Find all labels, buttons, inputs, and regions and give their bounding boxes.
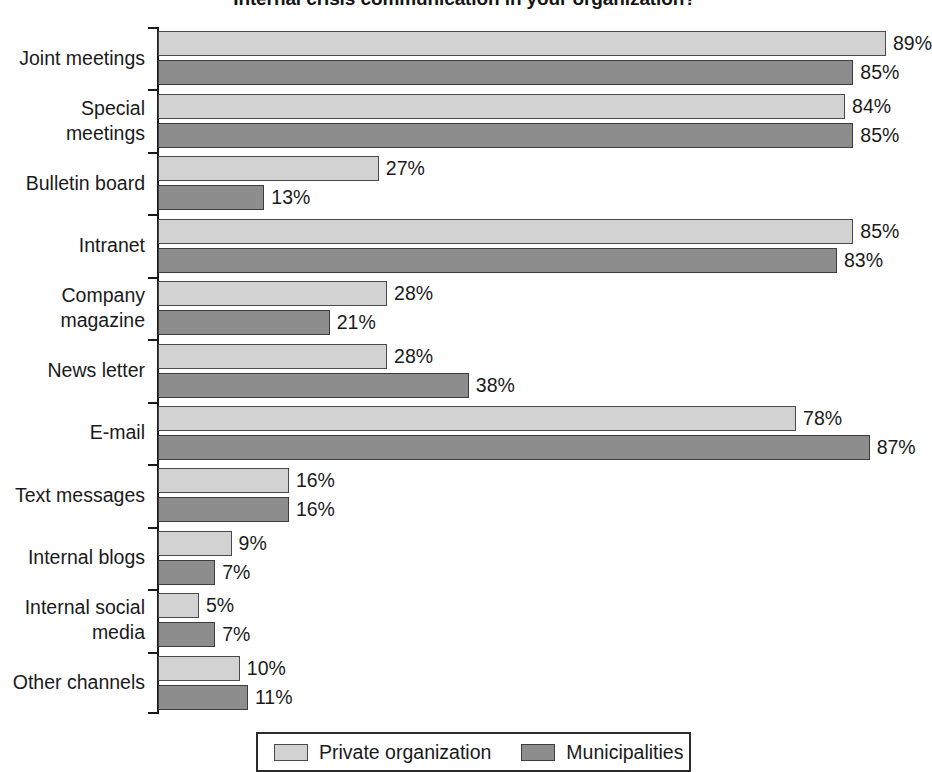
category-label: Company magazine bbox=[0, 283, 145, 333]
bar-municipalities bbox=[158, 435, 870, 460]
bar-value-label: 7% bbox=[222, 622, 250, 647]
bar-private-organization bbox=[158, 31, 886, 56]
legend-label: Private organization bbox=[319, 741, 491, 764]
legend-item: Private organization bbox=[274, 741, 491, 764]
bar-value-label: 13% bbox=[271, 185, 310, 210]
category-label: News letter bbox=[0, 358, 145, 383]
axis-tick bbox=[148, 652, 157, 654]
axis-tick bbox=[148, 527, 157, 529]
bar-municipalities bbox=[158, 373, 469, 398]
category-label: Other channels bbox=[0, 670, 145, 695]
axis-tick bbox=[148, 89, 157, 91]
category-label: Bulletin board bbox=[0, 171, 145, 196]
bar-private-organization bbox=[158, 281, 387, 306]
legend-item: Municipalities bbox=[521, 741, 683, 764]
bar-value-label: 28% bbox=[394, 344, 433, 369]
bar-value-label: 85% bbox=[860, 123, 899, 148]
axis-tick bbox=[148, 27, 157, 29]
bar-municipalities bbox=[158, 248, 837, 273]
category-label: Joint meetings bbox=[0, 46, 145, 71]
bar-value-label: 84% bbox=[852, 94, 891, 119]
bar-municipalities bbox=[158, 560, 215, 585]
bar-private-organization bbox=[158, 531, 232, 556]
axis-tick bbox=[148, 402, 157, 404]
legend-swatch-icon bbox=[274, 744, 308, 761]
bar-private-organization bbox=[158, 406, 796, 431]
bar-private-organization bbox=[158, 656, 240, 681]
axis-tick bbox=[148, 277, 157, 279]
bar-value-label: 10% bbox=[247, 656, 286, 681]
plot-area: 89%85%84%85%27%13%85%83%28%21%28%38%78%8… bbox=[157, 27, 929, 714]
bar-municipalities bbox=[158, 310, 330, 335]
bar-value-label: 89% bbox=[893, 31, 932, 56]
bar-value-label: 28% bbox=[394, 281, 433, 306]
legend-swatch-icon bbox=[521, 744, 555, 761]
category-label: Text messages bbox=[0, 483, 145, 508]
legend-label: Municipalities bbox=[566, 741, 683, 764]
axis-tick bbox=[148, 712, 157, 714]
bar-value-label: 83% bbox=[844, 248, 883, 273]
bar-municipalities bbox=[158, 622, 215, 647]
bar-value-label: 16% bbox=[296, 497, 335, 522]
axis-tick bbox=[148, 339, 157, 341]
bar-value-label: 7% bbox=[222, 560, 250, 585]
bar-municipalities bbox=[158, 60, 853, 85]
bar-value-label: 78% bbox=[803, 406, 842, 431]
chart-legend: Private organizationMunicipalities bbox=[256, 732, 691, 772]
bar-private-organization bbox=[158, 156, 379, 181]
bar-value-label: 87% bbox=[877, 435, 916, 460]
bar-municipalities bbox=[158, 123, 853, 148]
bar-value-label: 11% bbox=[255, 685, 293, 710]
axis-tick bbox=[148, 152, 157, 154]
bar-value-label: 5% bbox=[206, 593, 234, 618]
bar-municipalities bbox=[158, 185, 264, 210]
bar-municipalities bbox=[158, 497, 289, 522]
chart-title: Internal crisis communication in your or… bbox=[0, 0, 929, 10]
bar-private-organization bbox=[158, 219, 853, 244]
bar-value-label: 85% bbox=[860, 219, 899, 244]
bar-value-label: 9% bbox=[239, 531, 267, 556]
bar-value-label: 85% bbox=[860, 60, 899, 85]
bar-value-label: 27% bbox=[386, 156, 425, 181]
bar-municipalities bbox=[158, 685, 248, 710]
axis-tick bbox=[148, 589, 157, 591]
category-label: Special meetings bbox=[0, 96, 145, 146]
bar-private-organization bbox=[158, 344, 387, 369]
axis-tick bbox=[148, 214, 157, 216]
category-label: Intranet bbox=[0, 233, 145, 258]
bar-private-organization bbox=[158, 94, 845, 119]
axis-tick bbox=[148, 464, 157, 466]
bar-value-label: 21% bbox=[337, 310, 376, 335]
category-label: Internal blogs bbox=[0, 545, 145, 570]
bar-private-organization bbox=[158, 468, 289, 493]
category-label: E-mail bbox=[0, 420, 145, 445]
bar-private-organization bbox=[158, 593, 199, 618]
category-axis-labels: Joint meetingsSpecial meetingsBulletin b… bbox=[0, 27, 145, 714]
bar-value-label: 16% bbox=[296, 468, 335, 493]
category-label: Internal social media bbox=[0, 595, 145, 645]
bar-value-label: 38% bbox=[476, 373, 515, 398]
